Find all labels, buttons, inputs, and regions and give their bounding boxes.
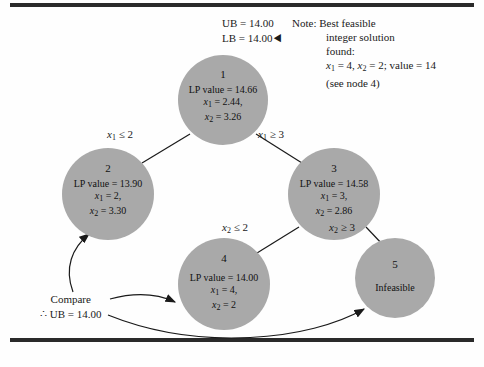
node-2-x1: x1 = 2, xyxy=(74,190,143,205)
note-line-1: Note: Best feasible xyxy=(292,16,436,30)
edge-label-x2-le-2: x2 ≤ 2 xyxy=(222,221,248,235)
edge-label-x2-ge-3-rel: ≥ 3 xyxy=(338,221,355,233)
node-3-x2: x2 = 2.86 xyxy=(300,205,369,220)
node-3-body: LP value = 14.58 x1 = 3, x2 = 2.86 xyxy=(300,178,369,220)
node-2-body: LP value = 13.90 x1 = 2, x2 = 3.30 xyxy=(74,178,143,220)
node-2-x1-value: = 2, xyxy=(103,190,121,201)
compare-label: Compare xyxy=(40,292,101,307)
node-3-x2-value: = 2.86 xyxy=(324,205,352,216)
compare-ub-result: ∴ UB = 14.00 xyxy=(40,307,101,322)
node-1-body: LP value = 14.66 x1 = 2.44, x2 = 3.26 xyxy=(189,84,258,126)
edge-1-to-2 xyxy=(142,134,190,163)
node-3-lp-value: LP value = 14.58 xyxy=(300,178,369,190)
tree-node-5[interactable]: 5 Infeasible xyxy=(355,238,435,318)
node-3-number: 3 xyxy=(331,162,337,174)
node-4-body: LP value = 14.00 x1 = 4, x2 = 2 xyxy=(190,272,259,314)
node-1-number: 1 xyxy=(220,68,226,80)
node-4-x2-value: = 2 xyxy=(220,299,236,310)
node-5-body: Infeasible xyxy=(375,282,414,294)
lower-bound-line: LB = 14.00◀ xyxy=(222,30,281,45)
node-4-x1: x1 = 4, xyxy=(190,284,259,299)
note-line-5: (see node 4) xyxy=(326,76,436,90)
note-line-3: found: xyxy=(326,44,436,58)
note-block: Note: Best feasible integer solution fou… xyxy=(292,16,436,90)
node-4-x2: x2 = 2 xyxy=(190,299,259,314)
node-2-number: 2 xyxy=(105,162,111,174)
compare-arrow-to-node-4 xyxy=(110,295,175,302)
node-1-x2-value: = 3.26 xyxy=(213,111,241,122)
tree-node-4[interactable]: 4 LP value = 14.00 x1 = 4, x2 = 2 xyxy=(178,238,270,330)
node-1-x1: x1 = 2.44, xyxy=(189,96,258,111)
node-4-lp-value: LP value = 14.00 xyxy=(190,272,259,284)
left-triangle-pointer-icon: ◀ xyxy=(273,30,280,44)
node-4-x1-value: = 4, xyxy=(219,284,237,295)
compare-arrow-to-node-2 xyxy=(69,234,89,292)
node-2-lp-value: LP value = 13.90 xyxy=(74,178,143,190)
node-1-x2: x2 = 3.26 xyxy=(189,111,258,126)
lower-bound-label: LB = 14.00 xyxy=(222,32,273,44)
node-1-lp-value: LP value = 14.66 xyxy=(189,84,258,96)
node-4-number: 4 xyxy=(221,252,227,264)
edge-label-x2-ge-3: x2 ≥ 3 xyxy=(329,221,355,235)
node-5-number: 5 xyxy=(392,258,398,270)
compare-annotation: Compare ∴ UB = 14.00 xyxy=(40,292,101,322)
node-5-status: Infeasible xyxy=(375,282,414,294)
bounds-block: UB = 14.00 LB = 14.00◀ xyxy=(222,16,281,45)
node-2-x2-value: = 3.30 xyxy=(98,205,126,216)
edge-label-x2-le-2-rel: ≤ 2 xyxy=(231,221,248,233)
edge-label-x1-le-2-rel: ≤ 2 xyxy=(116,128,133,140)
branch-and-bound-figure: UB = 14.00 LB = 14.00◀ Note: Best feasib… xyxy=(0,0,484,367)
note-line-4: x1 = 4, x2 = 2; value = 14 xyxy=(326,58,436,76)
note-line-2: integer solution xyxy=(326,30,436,44)
edge-3-to-4 xyxy=(257,227,299,253)
tree-node-1[interactable]: 1 LP value = 14.66 x1 = 2.44, x2 = 3.26 xyxy=(178,55,268,145)
node-2-x2: x2 = 3.30 xyxy=(74,205,143,220)
node-3-x1: x1 = 3, xyxy=(300,190,369,205)
note-x2-value: = 2; value = 14 xyxy=(367,59,437,71)
node-1-x1-value: = 2.44, xyxy=(212,96,243,107)
edge-label-x1-ge-3-rel: ≥ 3 xyxy=(267,128,284,140)
edge-label-x1-ge-3: x1 ≥ 3 xyxy=(258,128,284,142)
note-x1-value: = 4, xyxy=(335,59,358,71)
upper-bound-label: UB = 14.00 xyxy=(222,16,281,30)
tree-node-2[interactable]: 2 LP value = 13.90 x1 = 2, x2 = 3.30 xyxy=(62,148,154,240)
edge-label-x1-le-2: x1 ≤ 2 xyxy=(107,128,133,142)
node-3-x1-value: = 3, xyxy=(329,190,347,201)
